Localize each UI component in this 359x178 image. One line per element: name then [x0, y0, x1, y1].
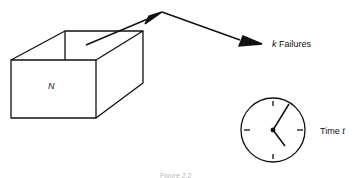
box-label: N [48, 81, 55, 91]
failures-text: Failures [279, 39, 311, 49]
failures-variable: k [272, 39, 277, 49]
box-icon [11, 31, 143, 118]
time-text: Time [320, 126, 340, 136]
clock-icon [241, 98, 305, 162]
time-label: Time t [320, 126, 345, 136]
failures-label: k Failures [272, 39, 311, 49]
time-variable: t [342, 126, 345, 136]
failure-arrow-icon [86, 12, 262, 46]
figure-caption: Figure 2.2 [160, 172, 192, 178]
